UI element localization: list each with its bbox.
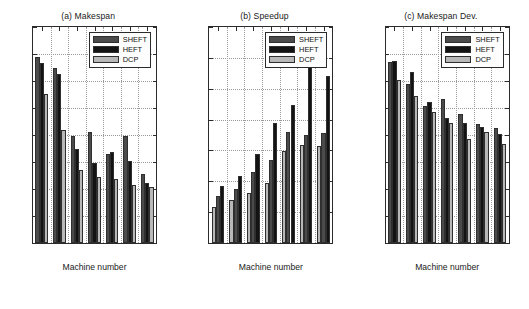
figure-canvas: (a) Makespan 050100150200250300350400468…	[0, 0, 529, 309]
y-tick-mark	[153, 135, 157, 136]
x-tick-mark	[95, 27, 96, 31]
y-tick-mark	[505, 135, 509, 136]
x-tick-mark	[77, 27, 78, 31]
legend-label: DCP	[299, 56, 315, 63]
gridline-vertical	[403, 27, 404, 243]
bar-dcp-12	[467, 139, 471, 243]
y-tick-mark	[329, 27, 333, 28]
legend-item-sheft: SHEFT	[269, 36, 323, 45]
y-tick-mark	[153, 162, 157, 163]
legend-label: HEFT	[123, 46, 142, 53]
plot-area-makespan-dev: 051015202530354046810121416SHEFTHEFTDCP	[385, 26, 510, 244]
legend: SHEFTHEFTDCP	[265, 32, 327, 68]
bar-heft-12	[291, 105, 295, 243]
panel-speedup: (b) Speedup 0123456746810121416SHEFTHEFT…	[176, 0, 352, 309]
x-tick-mark	[253, 27, 254, 31]
y-tick-mark	[209, 58, 213, 59]
legend-label: HEFT	[299, 46, 318, 53]
x-tick-mark	[430, 27, 431, 31]
sheft-swatch	[93, 36, 119, 43]
bar-dcp-10	[449, 123, 453, 243]
x-tick-mark	[236, 27, 237, 31]
y-tick-mark	[209, 243, 213, 244]
legend-item-sheft: SHEFT	[445, 36, 499, 45]
heft-swatch	[93, 46, 119, 53]
x-tick-mark	[394, 27, 395, 31]
dcp-swatch	[93, 56, 119, 63]
bar-heft-16	[326, 76, 330, 243]
bar-dcp-6	[414, 96, 418, 243]
x-tick-mark	[218, 27, 219, 31]
x-tick-mark	[59, 27, 60, 31]
legend: SHEFTHEFTDCP	[441, 32, 503, 68]
x-axis-label-a: Machine number	[32, 262, 157, 272]
bar-heft-4	[220, 186, 224, 243]
bar-dcp-16	[502, 144, 506, 243]
gridline-vertical	[244, 27, 245, 243]
bar-dcp-14	[484, 132, 488, 243]
gridline-vertical	[68, 27, 69, 243]
y-tick-mark	[33, 54, 37, 55]
y-tick-mark	[209, 150, 213, 151]
bar-dcp-4	[44, 94, 48, 243]
y-tick-mark	[386, 27, 390, 28]
panel-makespan: (a) Makespan 050100150200250300350400468…	[0, 0, 176, 309]
panel-makespan-dev: (c) Makespan Dev. 0510152025303540468101…	[353, 0, 529, 309]
sheft-swatch	[269, 36, 295, 43]
dcp-swatch	[269, 56, 295, 63]
legend-item-heft: HEFT	[445, 46, 499, 55]
x-tick-mark	[271, 27, 272, 31]
y-tick-mark	[329, 243, 333, 244]
legend-item-dcp: DCP	[445, 56, 499, 65]
y-tick-mark	[33, 243, 37, 244]
bar-dcp-10	[97, 177, 101, 243]
x-tick-mark	[306, 27, 307, 31]
x-tick-mark	[147, 27, 148, 31]
y-tick-mark	[153, 108, 157, 109]
bar-dcp-6	[61, 130, 65, 243]
bar-heft-10	[273, 123, 277, 243]
legend-label: DCP	[475, 56, 491, 63]
y-tick-mark	[505, 27, 509, 28]
x-tick-mark	[42, 27, 43, 31]
x-tick-mark	[482, 27, 483, 31]
legend-item-dcp: DCP	[93, 56, 147, 65]
y-tick-mark	[505, 108, 509, 109]
x-axis-label-b: Machine number	[208, 262, 333, 272]
legend-item-dcp: DCP	[269, 56, 323, 65]
y-tick-mark	[209, 120, 213, 121]
panel-title-c: (c) Makespan Dev.	[353, 11, 529, 21]
panel-title-a: (a) Makespan	[0, 11, 176, 21]
gridline-vertical	[51, 27, 52, 243]
legend-item-heft: HEFT	[93, 46, 147, 55]
gridline-vertical	[421, 27, 422, 243]
bar-dcp-14	[132, 185, 136, 243]
gridline-vertical	[86, 27, 87, 243]
bar-dcp-8	[79, 170, 83, 243]
bar-heft-6	[238, 176, 242, 243]
legend: SHEFTHEFTDCP	[89, 32, 151, 68]
y-tick-mark	[209, 181, 213, 182]
bar-dcp-16	[149, 187, 153, 243]
legend-label: SHEFT	[475, 36, 499, 43]
y-tick-mark	[153, 81, 157, 82]
heft-swatch	[445, 46, 471, 53]
y-tick-mark	[386, 243, 390, 244]
x-tick-mark	[412, 27, 413, 31]
legend-label: DCP	[123, 56, 139, 63]
legend-label: SHEFT	[123, 36, 147, 43]
y-tick-mark	[329, 58, 333, 59]
x-tick-mark	[324, 27, 325, 31]
x-tick-mark	[465, 27, 466, 31]
y-tick-mark	[209, 27, 213, 28]
x-tick-mark	[447, 27, 448, 31]
legend-label: SHEFT	[299, 36, 323, 43]
y-tick-mark	[153, 243, 157, 244]
bar-dcp-12	[114, 179, 118, 243]
legend-label: HEFT	[475, 46, 494, 53]
y-tick-mark	[505, 54, 509, 55]
panel-title-b: (b) Speedup	[176, 11, 352, 21]
y-tick-mark	[153, 54, 157, 55]
legend-item-sheft: SHEFT	[93, 36, 147, 45]
plot-area-makespan: 05010015020025030035040046810121416SHEFT…	[32, 26, 157, 244]
